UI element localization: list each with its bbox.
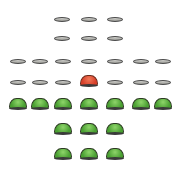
empty-hole-icon	[107, 59, 123, 64]
board-cell-r5-c1[interactable]	[8, 97, 28, 111]
board-cell-r5-c5[interactable]	[105, 97, 125, 111]
empty-hole-icon	[107, 36, 123, 41]
board-cell-r7-c2[interactable]	[79, 147, 99, 161]
peg-solitaire-board	[0, 0, 187, 172]
peg-icon	[54, 123, 72, 134]
peg-icon	[54, 98, 72, 109]
empty-hole-icon	[81, 59, 97, 64]
board-cell-r5-c3[interactable]	[53, 97, 73, 111]
board-cell-r3-c5[interactable]	[105, 53, 125, 67]
peg-icon	[54, 148, 72, 159]
board-cell-r4-c1[interactable]	[8, 74, 28, 88]
empty-hole-icon	[55, 59, 71, 64]
empty-hole-icon	[10, 59, 26, 64]
peg-icon	[80, 148, 98, 159]
board-cell-r4-c2[interactable]	[30, 74, 50, 88]
board-cell-r6-c1[interactable]	[53, 122, 73, 136]
empty-hole-icon	[32, 80, 48, 85]
board-cell-r3-c6[interactable]	[131, 53, 151, 67]
peg-icon	[31, 98, 49, 109]
board-cell-r4-c5[interactable]	[105, 74, 125, 88]
selected-peg-icon	[80, 75, 98, 86]
board-cell-r6-c2[interactable]	[79, 122, 99, 136]
board-cell-r5-c4[interactable]	[79, 97, 99, 111]
board-cell-r6-c3[interactable]	[105, 122, 125, 136]
board-cell-r4-c3[interactable]	[53, 74, 73, 88]
peg-icon	[9, 98, 27, 109]
board-cell-r2-c3[interactable]	[105, 30, 125, 44]
empty-hole-icon	[81, 36, 97, 41]
board-cell-r4-c7[interactable]	[153, 74, 173, 88]
board-cell-r5-c2[interactable]	[30, 97, 50, 111]
board-cell-r7-c1[interactable]	[53, 147, 73, 161]
empty-hole-icon	[55, 80, 71, 85]
empty-hole-icon	[10, 80, 26, 85]
empty-hole-icon	[155, 80, 171, 85]
board-cell-r3-c4[interactable]	[79, 53, 99, 67]
empty-hole-icon	[155, 59, 171, 64]
empty-hole-icon	[54, 17, 70, 22]
peg-icon	[80, 98, 98, 109]
empty-hole-icon	[81, 17, 97, 22]
board-cell-r4-c4[interactable]	[79, 74, 99, 88]
empty-hole-icon	[107, 80, 123, 85]
peg-icon	[106, 123, 124, 134]
board-cell-r2-c2[interactable]	[79, 30, 99, 44]
board-cell-r3-c1[interactable]	[8, 53, 28, 67]
board-cell-r7-c3[interactable]	[105, 147, 125, 161]
peg-icon	[80, 123, 98, 134]
empty-hole-icon	[133, 59, 149, 64]
empty-hole-icon	[133, 80, 149, 85]
peg-icon	[154, 98, 172, 109]
board-cell-r1-c1[interactable]	[52, 11, 72, 25]
board-cell-r3-c2[interactable]	[30, 53, 50, 67]
board-cell-r2-c1[interactable]	[52, 30, 72, 44]
peg-icon	[106, 98, 124, 109]
empty-hole-icon	[107, 17, 123, 22]
peg-icon	[132, 98, 150, 109]
board-cell-r5-c7[interactable]	[153, 97, 173, 111]
board-cell-r3-c7[interactable]	[153, 53, 173, 67]
board-cell-r1-c2[interactable]	[79, 11, 99, 25]
board-cell-r5-c6[interactable]	[131, 97, 151, 111]
board-cell-r4-c6[interactable]	[131, 74, 151, 88]
board-cell-r1-c3[interactable]	[105, 11, 125, 25]
empty-hole-icon	[32, 59, 48, 64]
empty-hole-icon	[54, 36, 70, 41]
peg-icon	[106, 148, 124, 159]
board-cell-r3-c3[interactable]	[53, 53, 73, 67]
